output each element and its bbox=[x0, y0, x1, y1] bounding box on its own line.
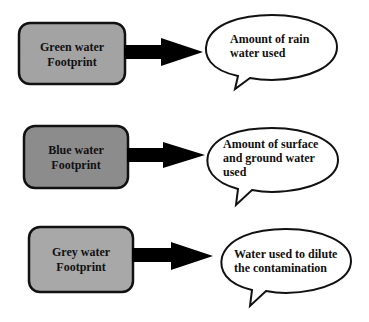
arrow-right-icon bbox=[132, 242, 213, 270]
blue-water-description: Amount of surface and ground water used bbox=[223, 137, 318, 179]
box-label-line: Footprint bbox=[29, 260, 133, 275]
box-label-line: Grey water bbox=[29, 245, 133, 260]
box-label-line: Footprint bbox=[24, 158, 128, 173]
green-water-description: Amount of rain water used bbox=[230, 32, 309, 60]
grey-water-description: Water used to dilute the contamination bbox=[234, 247, 337, 275]
blue-water-footprint-label: Blue water Footprint bbox=[24, 143, 128, 173]
bubble-text-line: and ground water bbox=[223, 151, 318, 165]
box-label-line: Green water bbox=[19, 40, 125, 55]
bubble-text-line: the contamination bbox=[234, 261, 337, 275]
box-label-line: Footprint bbox=[19, 55, 125, 70]
arrow-right-icon bbox=[127, 142, 205, 168]
bubble-text-line: water used bbox=[230, 46, 309, 60]
green-water-footprint-label: Green water Footprint bbox=[19, 40, 125, 70]
bubble-text-line: Water used to dilute bbox=[234, 247, 337, 261]
bubble-text-line: Amount of surface bbox=[223, 137, 318, 151]
bubble-text-line: Amount of rain bbox=[230, 32, 309, 46]
bubble-text-line: used bbox=[223, 165, 318, 179]
box-label-line: Blue water bbox=[24, 143, 128, 158]
grey-water-footprint-label: Grey water Footprint bbox=[29, 245, 133, 275]
arrow-right-icon bbox=[124, 38, 203, 66]
